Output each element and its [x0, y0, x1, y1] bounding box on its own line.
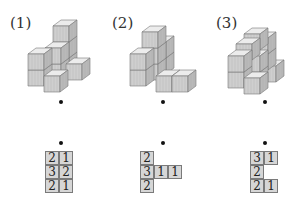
figure-2 — [130, 26, 196, 92]
grid-cell: 2 — [250, 179, 264, 193]
grid-cell: 2 — [250, 165, 264, 179]
grid-cell: 1 — [168, 165, 182, 179]
grid-cell: 2 — [140, 179, 154, 193]
grid-cell: 3 — [250, 151, 264, 165]
marker-dot-3 — [263, 141, 267, 145]
marker-dot-2-top — [161, 100, 165, 104]
grid-cell: 1 — [264, 151, 278, 165]
grid-cell: 2 — [59, 165, 73, 179]
grid-cell: 1 — [154, 165, 168, 179]
figure-1 — [28, 20, 90, 92]
grid-cell: 3 — [45, 165, 59, 179]
grid-cell: 1 — [59, 151, 73, 165]
marker-dot-2 — [161, 141, 165, 145]
grid-cell: 2 — [140, 151, 154, 165]
marker-dot-3-top — [263, 100, 267, 104]
grid-cell: 1 — [264, 179, 278, 193]
grid-cell: 2 — [45, 151, 59, 165]
marker-dot-1 — [59, 141, 63, 145]
figure-3 — [228, 28, 284, 94]
cube-stack-1 — [0, 0, 303, 110]
grid-cell: 3 — [140, 165, 154, 179]
grid-cell: 2 — [45, 179, 59, 193]
grid-cell: 1 — [59, 179, 73, 193]
marker-dot-1-top — [59, 100, 63, 104]
